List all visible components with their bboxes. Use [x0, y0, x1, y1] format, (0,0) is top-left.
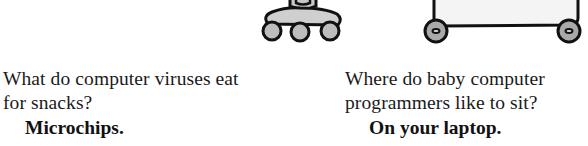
joke-question-line: What do computer viruses eat [3, 67, 293, 91]
joke-answer: On your laptop. [345, 116, 585, 140]
joke-microchips: What do computer viruses eat for snacks?… [3, 67, 293, 140]
joke-question-line: Where do baby computer [345, 67, 585, 91]
joke-question-line: for snacks? [3, 91, 293, 115]
joke-answer: Microchips. [3, 116, 293, 140]
joke-laptop: Where do baby computer programmers like … [345, 67, 585, 140]
robot-base-illustration [263, 0, 340, 41]
illustrations [0, 0, 588, 48]
joke-question-line: programmers like to sit? [345, 91, 585, 115]
laptop-cart-illustration [425, 0, 580, 42]
